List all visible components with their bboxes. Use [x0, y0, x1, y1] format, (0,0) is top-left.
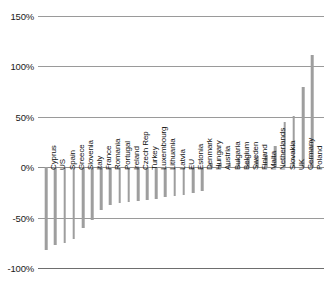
bar [100, 167, 103, 209]
bar [192, 167, 195, 193]
category-label: Latvia [178, 149, 187, 170]
category-label: Sweden [251, 142, 260, 170]
category-label: Lithuania [168, 139, 177, 171]
y-tick-label: 150% [0, 11, 34, 22]
bar [54, 167, 57, 245]
bar [127, 167, 130, 202]
bar [82, 167, 85, 227]
category-label: Greece [77, 145, 86, 171]
bar-slot [179, 16, 188, 268]
bar [182, 167, 185, 195]
category-label: Romania [113, 139, 122, 170]
category-label: Slovakia [288, 141, 297, 170]
category-label: UK [297, 159, 306, 170]
category-label: Czech Rep [141, 132, 150, 171]
category-label: EU [187, 159, 196, 170]
bar-slot [42, 16, 51, 268]
bar [118, 167, 121, 203]
category-label: Netherlands [278, 128, 287, 170]
category-label: Poland [315, 146, 324, 170]
bar [91, 167, 94, 219]
bar-slot [69, 16, 78, 268]
bar-chart: CyprusUSSpainGreeceSloveniaItalyFranceRo… [0, 0, 330, 289]
category-label: Hungary [214, 141, 223, 171]
bar [164, 167, 167, 197]
category-label: US [58, 159, 67, 170]
category-label: Cyprus [49, 145, 58, 170]
category-label: Italy [95, 156, 104, 170]
bar [201, 167, 204, 191]
category-label: Turkey [150, 147, 159, 171]
category-label: Estonia [196, 144, 205, 170]
category-label: Belgium [242, 142, 251, 170]
bar [155, 167, 158, 199]
bar [109, 167, 112, 205]
footer-artifact [30, 278, 280, 286]
gridline--100 [38, 268, 324, 269]
category-label: Denmark [205, 138, 214, 170]
category-label: Slovenia [86, 140, 95, 170]
bar [63, 167, 66, 243]
y-tick-label: 50% [0, 111, 34, 122]
category-label: Portugal [123, 141, 132, 170]
y-tick-label: 0% [0, 162, 34, 173]
category-label: Austria [223, 146, 232, 170]
y-tick-label: -100% [0, 263, 34, 274]
category-label: Spain [68, 150, 77, 170]
bar-slot [51, 16, 60, 268]
bar [173, 167, 176, 196]
y-tick-label: -50% [0, 212, 34, 223]
bar [302, 87, 305, 168]
bar [72, 167, 75, 239]
bar-slot [97, 16, 106, 268]
bar [45, 167, 48, 250]
category-label: France [104, 146, 113, 170]
bar-slot [60, 16, 69, 268]
category-label: Ireland [132, 146, 141, 170]
category-label: Luxembourg [159, 127, 168, 170]
category-label: Germany [306, 138, 315, 170]
bar [137, 167, 140, 201]
bar-slot [262, 16, 271, 268]
bar [146, 167, 149, 200]
category-label: Malta [269, 151, 278, 170]
y-tick-label: 100% [0, 61, 34, 72]
plot-area: CyprusUSSpainGreeceSloveniaItalyFranceRo… [38, 16, 324, 268]
bar-slot [188, 16, 197, 268]
category-label: Finland [260, 145, 269, 171]
category-label: Bulgaria [233, 142, 242, 171]
